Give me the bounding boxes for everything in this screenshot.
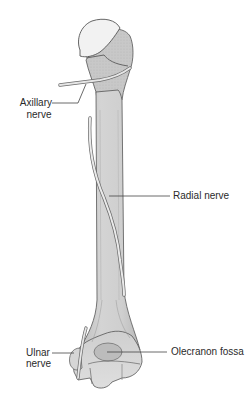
olecranon-fossa-label: Olecranon fossa	[171, 346, 244, 357]
ulnar-nerve-label: Ulnar nerve	[26, 347, 51, 369]
axillary-nerve-label: Axillary	[14, 97, 52, 108]
axillary-leader	[52, 84, 86, 103]
axillary-nerve-label-line2: nerve	[24, 109, 54, 120]
radial-nerve-label: Radial nerve	[173, 190, 229, 201]
